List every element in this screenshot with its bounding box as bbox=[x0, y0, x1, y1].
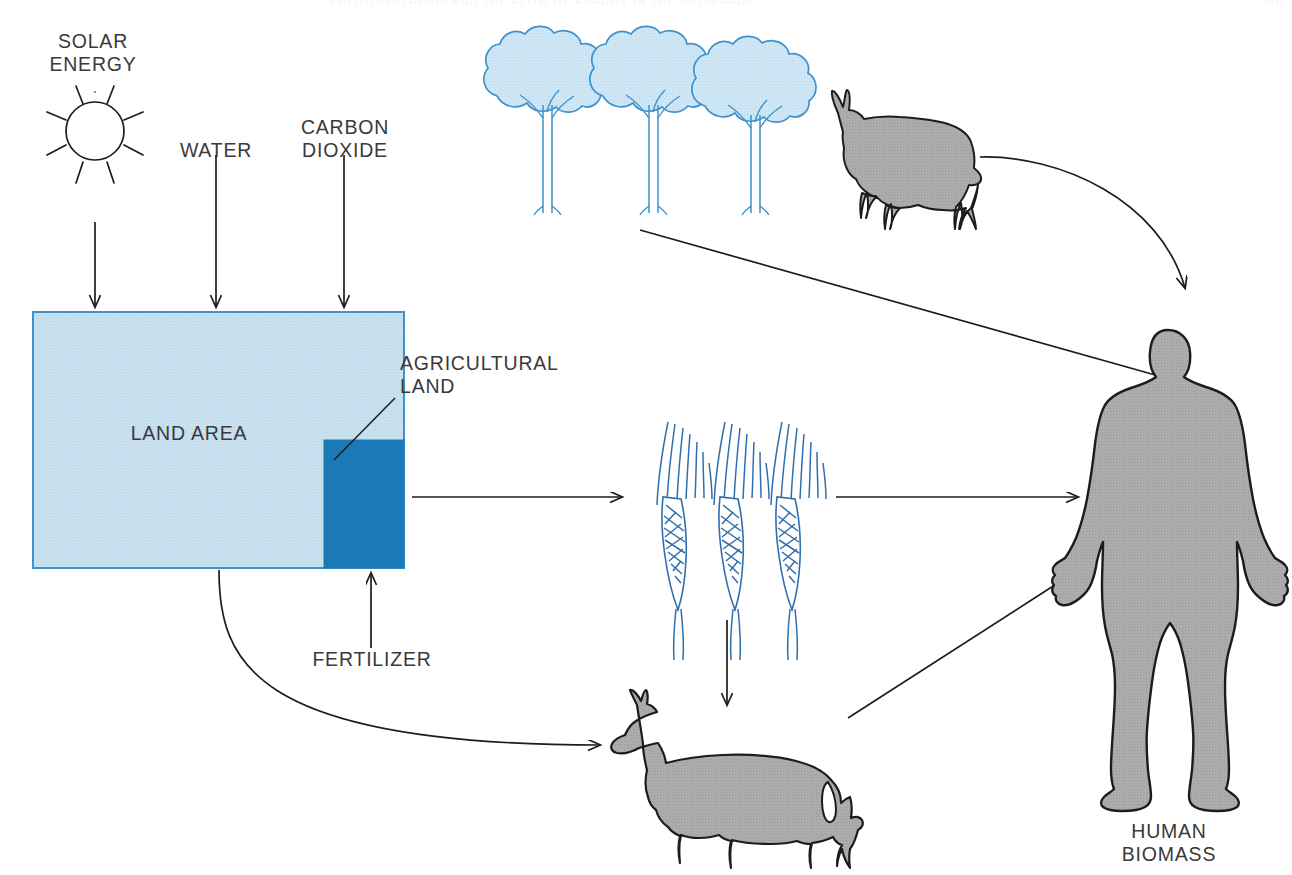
label-human-biomass: HUMAN BIOMASS bbox=[1098, 820, 1240, 866]
label-water: WATER bbox=[155, 139, 277, 162]
label-land-area: LAND AREA bbox=[104, 422, 274, 445]
tree-icon bbox=[590, 26, 714, 215]
label-solar-energy: SOLAR ENERGY bbox=[30, 30, 156, 76]
tree-icon bbox=[692, 36, 816, 215]
agricultural-land-rect bbox=[324, 440, 404, 568]
wheat-illustration bbox=[657, 422, 826, 660]
arrow-trees-to-human bbox=[640, 230, 1166, 378]
label-carbon-dioxide: CARBON DIOXIDE bbox=[283, 116, 407, 162]
wheat-icon bbox=[714, 422, 769, 660]
diagram-canvas: PHOTOSYNTHESIS AND THE FLOW OF ENERGY IN… bbox=[0, 0, 1292, 875]
arrow-cow-to-human bbox=[848, 572, 1075, 718]
label-agricultural-land: AGRICULTURAL LAND bbox=[400, 352, 590, 398]
cow-icon bbox=[611, 690, 863, 868]
trees-illustration bbox=[484, 26, 816, 215]
human-biomass-icon bbox=[1052, 330, 1288, 811]
goat-icon bbox=[832, 90, 981, 229]
wheat-icon bbox=[771, 422, 826, 660]
label-fertilizer: FERTILIZER bbox=[298, 648, 446, 671]
tree-icon bbox=[484, 26, 608, 215]
sun-icon bbox=[47, 86, 143, 183]
wheat-icon bbox=[657, 422, 712, 660]
arrow-goat-to-human bbox=[980, 157, 1185, 288]
